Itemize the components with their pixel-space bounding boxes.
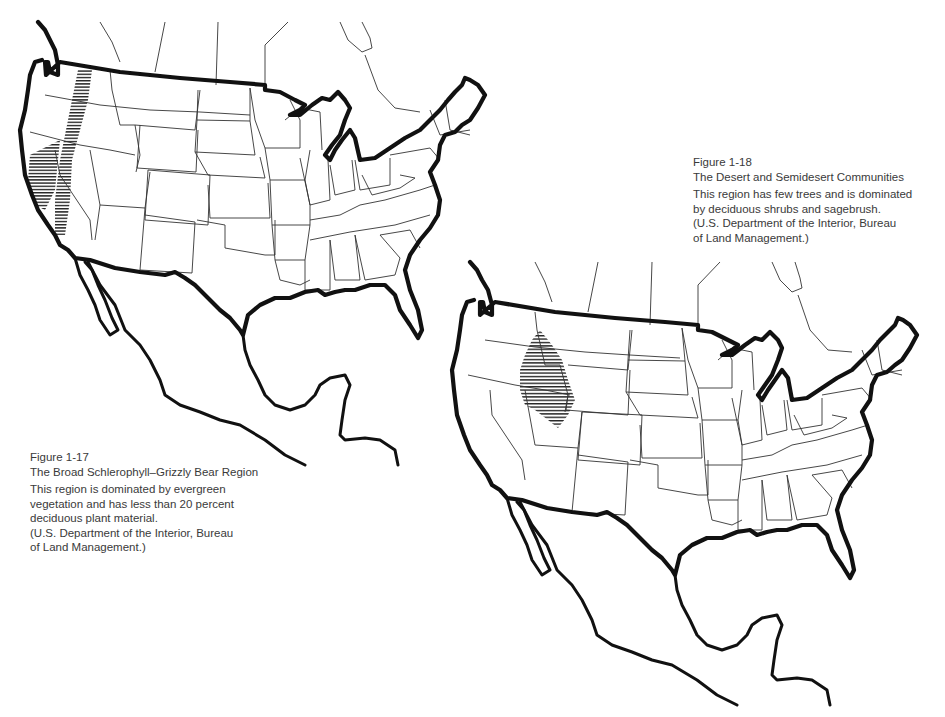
figure-description-line: deciduous plant material. bbox=[30, 511, 275, 526]
figure-description-line: This region has few trees and is dominat… bbox=[693, 187, 933, 202]
figure-number: Figure 1-18 bbox=[693, 155, 933, 170]
figure-description-line: by deciduous shrubs and sagebrush. bbox=[693, 202, 933, 217]
map-figure-1-18 bbox=[440, 250, 945, 717]
gulf-coast-mexico bbox=[675, 575, 830, 705]
figure-title: The Desert and Semidesert Communities bbox=[693, 170, 933, 185]
map-figure-1-17 bbox=[0, 0, 500, 470]
mexico-coastline bbox=[507, 498, 550, 575]
figure-description-line: of Land Management.) bbox=[693, 231, 933, 246]
figure-description-line: This region is dominated by evergreen bbox=[30, 482, 275, 497]
figure-title: The Broad Schlerophyll–Grizzly Bear Regi… bbox=[30, 465, 275, 480]
mexico-coastline bbox=[75, 258, 118, 335]
state-boundaries bbox=[30, 70, 470, 290]
hatched-region-great-basin bbox=[520, 330, 575, 428]
gulf-coast-mexico bbox=[243, 335, 398, 465]
figure-description-line: of Land Management.) bbox=[30, 540, 275, 555]
caption-figure-1-17: Figure 1-17 The Broad Schlerophyll–Grizz… bbox=[30, 450, 275, 555]
figure-description-line: (U.S. Department of the Interior, Bureau bbox=[30, 526, 275, 541]
canada-province-lines bbox=[535, 262, 852, 352]
mexico-mainland bbox=[520, 502, 737, 705]
figure-description-line: (U.S. Department of the Interior, Bureau bbox=[693, 216, 933, 231]
figure-number: Figure 1-17 bbox=[30, 450, 275, 465]
figure-description-line: vegetation and has less than 20 percent bbox=[30, 497, 275, 512]
canada-province-lines bbox=[100, 22, 420, 112]
caption-figure-1-18: Figure 1-18 The Desert and Semidesert Co… bbox=[693, 155, 933, 245]
mexico-mainland bbox=[88, 262, 305, 465]
